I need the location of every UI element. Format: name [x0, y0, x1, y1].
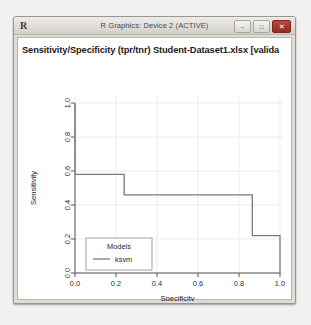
window-title-bar[interactable]: R R Graphics: Device 2 (ACTIVE) – □ ✕ [14, 17, 295, 35]
svg-text:Specificity: Specificity [160, 294, 194, 301]
svg-text:0.6: 0.6 [63, 166, 72, 176]
roc-chart: 0.00.20.40.60.81.00.00.20.40.60.81.0Sens… [18, 38, 293, 301]
close-button[interactable]: ✕ [272, 20, 291, 33]
svg-text:0.2: 0.2 [111, 279, 121, 288]
r-graphics-window: R R Graphics: Device 2 (ACTIVE) – □ ✕ Se… [13, 16, 296, 304]
minimize-icon: – [235, 21, 250, 32]
svg-text:0.8: 0.8 [234, 279, 244, 288]
svg-text:0.2: 0.2 [63, 234, 72, 244]
chart-legend: Modelsksvm [86, 238, 152, 270]
maximize-button[interactable]: □ [253, 20, 270, 33]
svg-text:0.4: 0.4 [152, 279, 162, 288]
maximize-icon: □ [254, 21, 269, 32]
svg-text:0.0: 0.0 [70, 279, 80, 288]
svg-text:0.8: 0.8 [63, 132, 72, 142]
svg-text:ksvm: ksvm [115, 255, 132, 264]
minimize-button[interactable]: – [234, 20, 251, 33]
svg-text:1.0: 1.0 [63, 98, 72, 108]
svg-text:0.6: 0.6 [193, 279, 203, 288]
plot-canvas: Sensitivity/Specificity (tpr/tnr) Studen… [17, 37, 292, 300]
close-icon: ✕ [273, 21, 290, 32]
svg-text:0.0: 0.0 [63, 268, 72, 278]
svg-text:1.0: 1.0 [275, 279, 285, 288]
screenshot-page: R R Graphics: Device 2 (ACTIVE) – □ ✕ Se… [0, 0, 311, 325]
svg-text:0.4: 0.4 [63, 200, 72, 210]
window-controls: – □ ✕ [234, 20, 291, 33]
svg-text:Sensitivity: Sensitivity [29, 171, 38, 205]
svg-text:Models: Models [107, 242, 131, 251]
